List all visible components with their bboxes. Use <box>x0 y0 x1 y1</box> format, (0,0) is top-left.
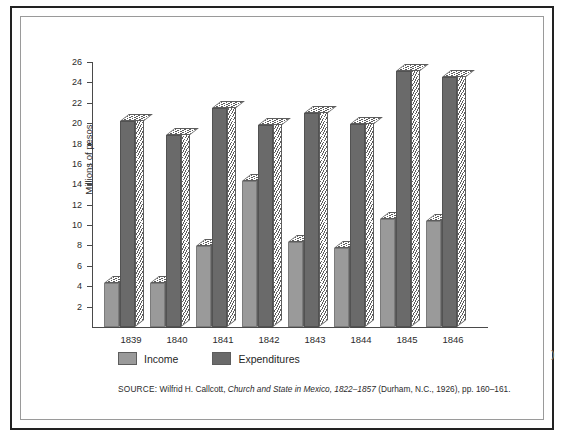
x-axis-tick-label: 1846 <box>431 334 475 345</box>
y-axis-tick-label: 22 <box>60 99 82 108</box>
bar-income <box>426 221 441 327</box>
source-label: SOURCE: <box>118 384 157 394</box>
x-axis-tick-label: 1844 <box>339 334 383 345</box>
bar-expenditures <box>166 135 181 327</box>
legend-item-income: Income <box>118 352 178 365</box>
bar-front-face <box>212 108 227 327</box>
y-axis-tick-label: 6 <box>60 262 82 271</box>
x-axis-tick-label: 1839 <box>109 334 153 345</box>
bar-front-face <box>304 113 319 327</box>
bar-front-face <box>242 181 257 327</box>
y-axis-title: Millions of pesos <box>83 100 94 220</box>
legend-label-expenditures: Expenditures <box>238 353 299 365</box>
bar-top-face <box>212 101 245 108</box>
bar-income <box>104 283 119 327</box>
legend-label-income: Income <box>144 353 178 365</box>
y-axis-tick <box>87 62 93 63</box>
bar-front-face <box>196 246 211 327</box>
source-title: Church and State in Mexico, 1822–1857 <box>228 384 376 394</box>
source-author: Wilfrid H. Callcott, <box>160 384 226 394</box>
y-axis-tick <box>87 184 93 185</box>
y-axis-tick <box>87 164 93 165</box>
bar-side-face <box>181 128 190 327</box>
source-publication: (Durham, N.C., 1926), pp. 160–161. <box>378 384 510 394</box>
x-axis-tick-label: 1842 <box>247 334 291 345</box>
bar-front-face <box>334 248 349 328</box>
bar-front-face <box>258 125 273 327</box>
bar-expenditures <box>212 108 227 327</box>
bar-income <box>380 219 395 327</box>
bar-top-face <box>258 118 291 125</box>
bar-income <box>196 246 211 327</box>
y-axis-tick-label: 18 <box>60 140 82 149</box>
page-margin-artifact: ) <box>551 349 559 359</box>
bar-income <box>242 181 257 327</box>
y-axis-tick-label: 4 <box>60 282 82 291</box>
legend-swatch-income <box>118 352 137 365</box>
bar-top-face <box>396 64 429 71</box>
x-axis-tick-label: 1845 <box>385 334 429 345</box>
bar-income <box>334 248 349 328</box>
source-note: SOURCE: Wilfrid H. Callcott, Church and … <box>118 383 518 395</box>
x-axis-line <box>92 327 488 328</box>
y-axis-tick <box>87 266 93 267</box>
bar-top-face <box>442 70 475 77</box>
bar-side-face <box>227 101 236 327</box>
x-axis-tick-label: 1843 <box>293 334 337 345</box>
y-axis-tick-label: 2 <box>60 303 82 312</box>
y-axis-tick <box>87 286 93 287</box>
y-axis-tick <box>87 144 93 145</box>
y-axis-tick <box>87 82 93 83</box>
bar-front-face <box>150 283 165 327</box>
bar-side-face <box>411 64 420 327</box>
bar-top-face <box>120 114 153 121</box>
bar-front-face <box>426 221 441 327</box>
x-axis-tick-label: 1841 <box>201 334 245 345</box>
bar-expenditures <box>258 125 273 327</box>
bar-side-face <box>365 117 374 327</box>
y-axis-tick-label: 8 <box>60 241 82 250</box>
bar-expenditures <box>304 113 319 327</box>
bar-expenditures <box>396 71 411 327</box>
bar-top-face <box>166 128 199 135</box>
y-axis-tick-label: 20 <box>60 119 82 128</box>
bar-side-face <box>319 106 328 327</box>
legend-swatch-expenditures <box>212 352 231 365</box>
bar-income <box>288 242 303 327</box>
bar-front-face <box>350 124 365 327</box>
y-axis-tick <box>87 123 93 124</box>
bar-top-face <box>350 117 383 124</box>
bar-front-face <box>104 283 119 327</box>
bar-chart-plot-area: Millions of pesos 2468101214161820222426… <box>74 56 490 331</box>
bar-expenditures <box>120 121 135 327</box>
bar-front-face <box>442 77 457 327</box>
bar-income <box>150 283 165 327</box>
y-axis-tick-label: 24 <box>60 78 82 87</box>
bar-front-face <box>288 242 303 327</box>
y-axis-tick-label: 14 <box>60 180 82 189</box>
y-axis-tick-label: 26 <box>60 58 82 67</box>
bar-side-face <box>273 118 282 327</box>
y-axis-tick-label: 16 <box>60 160 82 169</box>
bar-side-face <box>135 114 144 327</box>
bar-front-face <box>120 121 135 327</box>
y-axis-tick <box>87 307 93 308</box>
bar-expenditures <box>442 77 457 327</box>
bar-side-face <box>457 70 466 327</box>
chart-legend: Income Expenditures <box>118 352 300 365</box>
y-axis-tick-label: 10 <box>60 221 82 230</box>
bar-front-face <box>380 219 395 327</box>
bar-front-face <box>396 71 411 327</box>
y-axis-tick <box>87 225 93 226</box>
y-axis-tick <box>87 205 93 206</box>
x-axis-tick-label: 1840 <box>155 334 199 345</box>
bar-expenditures <box>350 124 365 327</box>
y-axis-tick <box>87 245 93 246</box>
legend-item-expenditures: Expenditures <box>212 352 299 365</box>
y-axis-tick <box>87 103 93 104</box>
bar-top-face <box>304 106 337 113</box>
bar-front-face <box>166 135 181 327</box>
y-axis-tick-label: 12 <box>60 201 82 210</box>
